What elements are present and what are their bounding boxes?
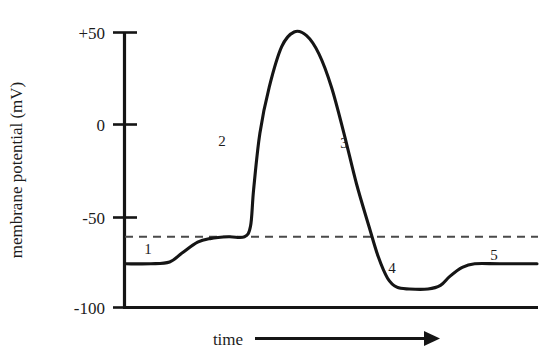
x-axis-title: time	[213, 330, 243, 349]
y-axis-title: membrane potential (mV)	[7, 82, 26, 259]
phase-label-2: 2	[218, 133, 226, 149]
phase-label-4: 4	[388, 260, 396, 276]
phase-label-5: 5	[490, 247, 498, 263]
phase-label-1: 1	[144, 241, 152, 257]
action-potential-figure: +50 0 -50 -100 membrane potential (mV) t…	[0, 0, 551, 363]
y-tick-label-minus50: -50	[82, 209, 105, 228]
y-tick-label-plus50: +50	[78, 24, 105, 43]
phase-label-3: 3	[340, 135, 348, 151]
chart-canvas: +50 0 -50 -100 membrane potential (mV) t…	[0, 0, 551, 363]
action-potential-trace	[126, 31, 537, 289]
time-arrow-head	[424, 331, 440, 346]
y-tick-label-minus100: -100	[74, 299, 105, 318]
y-tick-label-zero: 0	[97, 116, 106, 135]
